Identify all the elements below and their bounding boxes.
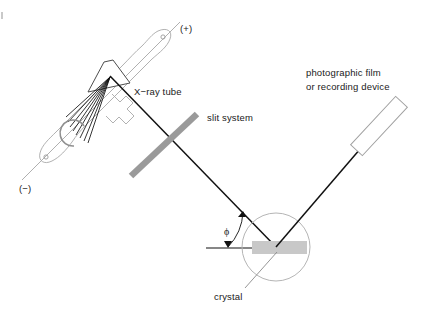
slit-system-label: slit system [207,112,253,123]
x-ray-tube-assembly: (+) (−) X−ray tube [19,22,192,194]
detector-label-line1: photographic film [306,67,381,78]
cathode-terminal-label: (−) [19,183,31,194]
incident-beam [110,76,276,247]
crystal-label: crystal [214,291,243,302]
detector-label-line2: or recording device [306,81,390,92]
detector-plate [351,96,408,155]
bragg-angle-label: ϕ [224,226,229,237]
x-ray-tube-label: X−ray tube [134,86,182,97]
slit-system-bar [131,114,197,176]
electron-beam-fan [66,77,110,143]
anode-terminal-label: (+) [180,23,192,34]
detector-group: photographic film or recording device [306,67,407,156]
scan-edge-artifact [1,12,3,19]
crystal-leader-line [245,252,277,288]
xray-diffraction-diagram: (+) (−) X−ray tube slit system ϕ [0,0,437,313]
diagram-canvas: (+) (−) X−ray tube slit system ϕ [0,0,437,313]
slit-system-group: slit system [131,112,253,176]
tube-window-neck [106,94,134,124]
